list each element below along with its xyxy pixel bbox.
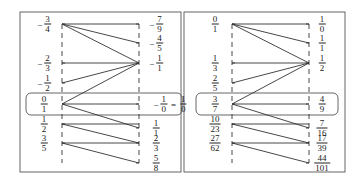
left-fraction-label: 01 xyxy=(212,15,219,34)
fraction: 79 xyxy=(156,15,163,34)
connector-line xyxy=(232,24,309,43)
right-fraction-label: −79 xyxy=(149,15,163,34)
right-fraction-label: −11 xyxy=(149,54,163,73)
fraction: 11 xyxy=(156,54,163,73)
denominator: 9 xyxy=(319,104,326,114)
fraction: 25 xyxy=(212,74,219,93)
minus-sign: − xyxy=(37,19,42,29)
left-fraction-label: 1023 xyxy=(210,115,221,134)
numerator: 7 xyxy=(156,15,163,24)
fraction: 44101 xyxy=(314,154,330,173)
numerator: 5 xyxy=(153,154,160,163)
right-fraction-label: 10 xyxy=(319,15,326,34)
right-fraction-label: −45 xyxy=(149,34,163,53)
minus-sign: − xyxy=(37,58,42,68)
numerator: 3 xyxy=(41,134,48,143)
numerator: 1 xyxy=(319,54,326,63)
fraction: 11 xyxy=(319,34,326,53)
numerator: 1 xyxy=(161,95,168,104)
connector-line xyxy=(62,24,139,43)
numerator: 4 xyxy=(156,34,163,43)
numerator: 1 xyxy=(319,34,326,43)
fraction: 23 xyxy=(153,134,160,153)
denominator: 7 xyxy=(212,104,219,114)
left-fraction-label: 01 xyxy=(41,95,48,114)
numerator: 0 xyxy=(212,15,219,24)
numerator: 1 xyxy=(212,54,219,63)
numerator: 10 xyxy=(210,115,221,124)
denominator: 8 xyxy=(153,163,160,173)
denominator: 1 xyxy=(212,24,219,34)
fraction: 35 xyxy=(41,134,48,153)
minus-sign: − xyxy=(149,58,154,68)
denominator: 62 xyxy=(210,143,221,153)
numerator: 1 xyxy=(153,119,160,128)
denominator: 39 xyxy=(317,143,328,153)
minus-sign: − xyxy=(149,38,154,48)
fraction: 58 xyxy=(153,154,160,173)
fraction: 49 xyxy=(319,95,326,114)
connector-line xyxy=(232,143,309,163)
denominator: 1 xyxy=(319,43,326,53)
denominator: 4 xyxy=(44,24,51,34)
right-fraction-label: 23 xyxy=(153,134,160,153)
numerator: 1 xyxy=(156,54,163,63)
fraction: 23 xyxy=(44,54,51,73)
numerator: 2 xyxy=(153,134,160,143)
left-fraction-label: 2762 xyxy=(210,134,221,153)
connector-line xyxy=(232,124,309,143)
fraction: 13 xyxy=(212,54,219,73)
left-fraction-label: 25 xyxy=(212,74,219,93)
minus-sign: − xyxy=(149,19,154,29)
right-fraction-label: 12 xyxy=(319,54,326,73)
fraction: 45 xyxy=(156,34,163,53)
numerator: 1 xyxy=(319,15,326,24)
numerator: 7 xyxy=(319,119,326,128)
numerator: 27 xyxy=(210,134,221,143)
left-fraction-label: 37 xyxy=(212,95,219,114)
fraction: 1739 xyxy=(317,134,328,153)
denominator: 1 xyxy=(156,63,163,73)
connector-line xyxy=(62,24,139,63)
connector-line xyxy=(62,63,139,83)
connector-line xyxy=(62,124,139,143)
connector-line xyxy=(62,143,139,163)
fraction: 10 xyxy=(180,95,187,114)
left-fraction-label: −23 xyxy=(37,54,51,73)
denominator: 5 xyxy=(41,143,48,153)
right-fraction-label: 49 xyxy=(319,95,326,114)
left-fraction-label: −34 xyxy=(37,15,51,34)
fraction: 34 xyxy=(44,15,51,34)
denominator: 3 xyxy=(153,143,160,153)
numerator: 3 xyxy=(44,15,51,24)
fraction: 12 xyxy=(41,115,48,134)
denominator: 1 xyxy=(41,104,48,114)
denominator: 3 xyxy=(44,63,51,73)
fraction: 10 xyxy=(319,15,326,34)
denominator: 5 xyxy=(212,83,219,93)
right-fraction-label: 1739 xyxy=(317,134,328,153)
connector-line xyxy=(232,24,309,63)
denominator: 3 xyxy=(212,63,219,73)
denominator: 2 xyxy=(319,63,326,73)
numerator: 0 xyxy=(41,95,48,104)
connector-line xyxy=(232,63,309,104)
right-fraction-label: 58 xyxy=(153,154,160,173)
fraction: 01 xyxy=(41,95,48,114)
minus-sign: − xyxy=(37,78,42,88)
denominator: 101 xyxy=(314,163,330,173)
right-fraction-label: 11 xyxy=(319,34,326,53)
minus-sign: − xyxy=(153,99,158,109)
fraction: 12 xyxy=(44,74,51,93)
left-fraction-label: 12 xyxy=(41,115,48,134)
denominator: 5 xyxy=(156,43,163,53)
numerator: 2 xyxy=(44,54,51,63)
numerator: 44 xyxy=(317,154,328,163)
numerator: 3 xyxy=(212,95,219,104)
fraction: 10 xyxy=(161,95,168,114)
denominator: 0 xyxy=(180,104,187,114)
fraction: 2762 xyxy=(210,134,221,153)
numerator: 4 xyxy=(319,95,326,104)
left-fraction-label: −12 xyxy=(37,74,51,93)
equals-sign: = xyxy=(171,99,176,109)
